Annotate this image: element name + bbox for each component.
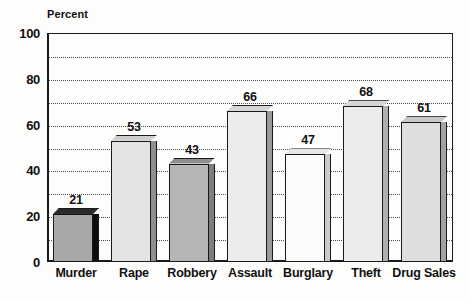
bar-front-face	[401, 122, 441, 262]
bar-robbery	[169, 158, 215, 262]
bar-value-label-robbery: 43	[163, 143, 221, 157]
bar-side-face	[93, 214, 99, 262]
bar-side-face	[151, 141, 157, 262]
bar-chart: Percent 020406080100 21534366476861 Murd…	[0, 0, 470, 302]
bar-assault	[227, 105, 273, 262]
bar-side-face	[209, 164, 215, 262]
bar-front-face	[169, 164, 209, 262]
bar-rape	[111, 135, 157, 262]
bar-theft	[343, 100, 389, 262]
bar-front-face	[343, 106, 383, 262]
bar-front-face	[53, 214, 93, 262]
bar-front-face	[227, 111, 267, 262]
bar-side-face	[267, 111, 273, 262]
bar-value-label-theft: 68	[337, 85, 395, 99]
x-axis-category-labels: MurderRapeRobberyAssaultBurglaryTheftDru…	[47, 266, 453, 292]
bar-value-label-assault: 66	[221, 90, 279, 104]
y-tick-label-60: 60	[0, 117, 40, 132]
bar-value-label-burglary: 47	[279, 133, 337, 147]
bar-value-label-rape: 53	[105, 120, 163, 134]
y-tick-label-0: 0	[0, 255, 40, 270]
y-axis-title: Percent	[47, 8, 88, 20]
y-tick-label-80: 80	[0, 71, 40, 86]
bar-burglary	[285, 148, 331, 262]
bar-value-label-murder: 21	[47, 193, 105, 207]
y-tick-label-100: 100	[0, 26, 40, 41]
bar-murder	[53, 208, 99, 262]
bar-front-face	[285, 154, 325, 262]
bar-front-face	[111, 141, 151, 262]
y-tick-label-40: 40	[0, 163, 40, 178]
x-tick-label-drug-sales: Drug Sales	[389, 266, 459, 280]
bar-side-face	[325, 154, 331, 262]
y-tick-label-20: 20	[0, 209, 40, 224]
bar-series: 21534366476861	[47, 33, 453, 262]
bar-drug-sales	[401, 116, 447, 262]
bar-side-face	[441, 122, 447, 262]
bar-side-face	[383, 106, 389, 262]
bar-value-label-drug-sales: 61	[395, 101, 453, 115]
